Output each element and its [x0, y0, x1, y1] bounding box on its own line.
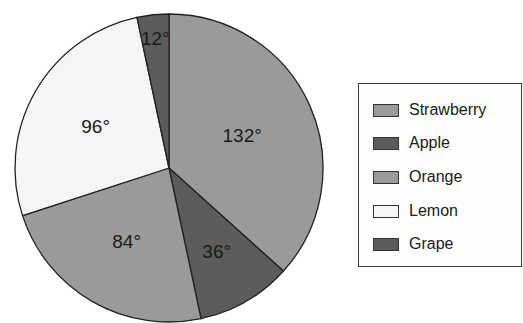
- slice-label: 12°: [141, 28, 170, 49]
- legend-item-apple: Apple: [373, 132, 450, 154]
- legend-label: Lemon: [409, 202, 458, 220]
- legend-item-strawberry: Strawberry: [373, 99, 486, 121]
- legend-label: Strawberry: [409, 101, 486, 119]
- legend-swatch: [373, 205, 399, 218]
- legend-label: Grape: [409, 235, 453, 253]
- pie-chart: 132°36°84°96°12°: [0, 0, 340, 323]
- slice-label: 132°: [223, 125, 262, 146]
- legend-item-orange: Orange: [373, 166, 462, 188]
- slice-label: 96°: [81, 116, 110, 137]
- legend-swatch: [373, 104, 399, 117]
- legend-swatch: [373, 137, 399, 150]
- slice-label: 84°: [112, 231, 141, 252]
- legend-label: Apple: [409, 134, 450, 152]
- legend-item-grape: Grape: [373, 233, 453, 255]
- legend: Strawberry Apple Orange Lemon Grape: [358, 83, 522, 267]
- legend-swatch: [373, 171, 399, 184]
- slice-label: 36°: [202, 241, 231, 262]
- legend-label: Orange: [409, 168, 462, 186]
- legend-swatch: [373, 238, 399, 251]
- legend-item-lemon: Lemon: [373, 200, 458, 222]
